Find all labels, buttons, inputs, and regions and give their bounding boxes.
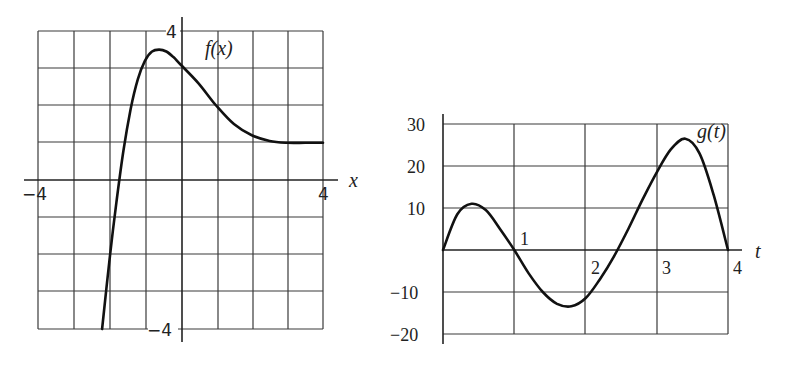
- gt-xtick-4: 4: [733, 258, 742, 278]
- fx-function-label: f(x): [205, 37, 233, 60]
- fx-x-label: x: [348, 169, 358, 191]
- gt-t-label: t: [755, 240, 761, 262]
- fx-xtick-max: 4: [318, 184, 329, 204]
- gt-ytick-10: 10: [407, 199, 425, 219]
- chart-canvas: 4 −4 −4 4 x f(x) 30 20 10 −10 −20 1 2 3 …: [0, 0, 787, 367]
- gt-grid: [443, 124, 728, 334]
- gt-ytick-neg10: −10: [390, 283, 418, 303]
- gt-xtick-3: 3: [662, 258, 671, 278]
- gt-ytick-30: 30: [407, 115, 425, 135]
- fx-curve: [102, 50, 323, 329]
- fx-graph: 4 −4 −4 4 x f(x): [22, 17, 358, 342]
- gt-ytick-neg20: −20: [390, 325, 418, 345]
- gt-xtick-2: 2: [591, 258, 600, 278]
- fx-ytick-max: 4: [166, 22, 177, 42]
- fx-ytick-min: −4: [147, 320, 172, 340]
- gt-function-label: g(t): [697, 120, 726, 143]
- gt-graph: 30 20 10 −10 −20 1 2 3 4 t g(t): [390, 114, 761, 345]
- gt-xtick-1: 1: [520, 229, 529, 249]
- fx-xtick-min: −4: [22, 184, 47, 204]
- gt-ytick-20: 20: [407, 157, 425, 177]
